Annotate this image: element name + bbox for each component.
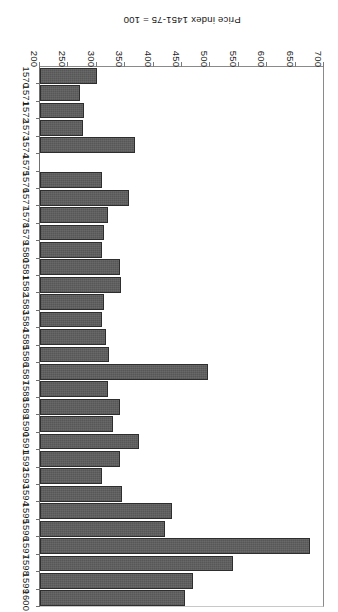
bar-row xyxy=(40,84,324,101)
bar-1571 xyxy=(40,85,80,101)
bar-row xyxy=(40,555,324,572)
category-tick xyxy=(36,118,40,119)
bar-row xyxy=(40,415,324,432)
category-tick xyxy=(36,571,40,572)
bar-row xyxy=(40,381,324,398)
bar-1573 xyxy=(40,120,83,136)
bar-1578 xyxy=(40,207,108,223)
bar-row xyxy=(40,328,324,345)
category-tick xyxy=(36,501,40,502)
value-tick-label: 250 xyxy=(57,39,68,79)
bar-row xyxy=(40,590,324,607)
category-tick xyxy=(36,136,40,137)
bar-row xyxy=(40,433,324,450)
bar-1594 xyxy=(40,486,122,502)
category-tick xyxy=(36,397,40,398)
bar-1581 xyxy=(40,259,120,275)
value-tick-label: 550 xyxy=(228,39,239,79)
category-tick xyxy=(36,414,40,415)
bar-1599 xyxy=(40,573,193,589)
bar-row xyxy=(40,102,324,119)
category-tick xyxy=(36,205,40,206)
bar-1577 xyxy=(40,190,129,206)
bar-row xyxy=(40,259,324,276)
bar-row xyxy=(40,241,324,258)
bar-1600 xyxy=(40,590,185,606)
category-tick xyxy=(36,554,40,555)
bar-1589 xyxy=(40,399,120,415)
bar-row xyxy=(40,189,324,206)
bar-row xyxy=(40,346,324,363)
category-tick xyxy=(36,345,40,346)
bar-1596 xyxy=(40,521,165,537)
category-tick xyxy=(36,536,40,537)
value-tick-label: 600 xyxy=(256,39,267,79)
bar-row xyxy=(40,154,324,171)
bar-row xyxy=(40,572,324,589)
category-label-1570: 1570 xyxy=(17,67,34,84)
value-tick-label: 400 xyxy=(143,39,154,79)
category-tick xyxy=(36,449,40,450)
category-tick xyxy=(36,171,40,172)
bar-row xyxy=(40,398,324,415)
bar-row xyxy=(40,224,324,241)
category-tick xyxy=(36,484,40,485)
bar-1590 xyxy=(40,416,113,432)
bar-row xyxy=(40,137,324,154)
category-tick xyxy=(36,589,40,590)
bar-1574 xyxy=(40,138,135,154)
bar-1591 xyxy=(40,434,139,450)
category-tick xyxy=(36,101,40,102)
category-tick xyxy=(36,606,40,607)
bar-1585 xyxy=(40,329,106,345)
bar-1586 xyxy=(40,347,109,363)
bar-row xyxy=(40,485,324,502)
category-tick xyxy=(36,188,40,189)
bar-row xyxy=(40,172,324,189)
bar-series xyxy=(40,67,324,607)
category-tick xyxy=(36,310,40,311)
bar-1592 xyxy=(40,451,120,467)
bar-1583 xyxy=(40,294,104,310)
category-tick xyxy=(36,327,40,328)
value-tick-label: 300 xyxy=(86,39,97,79)
value-tick-label: 500 xyxy=(199,39,210,79)
category-tick xyxy=(36,275,40,276)
bar-1584 xyxy=(40,312,102,328)
bar-1576 xyxy=(40,172,102,188)
category-tick xyxy=(36,153,40,154)
bar-row xyxy=(40,206,324,223)
bar-row xyxy=(40,520,324,537)
value-tick-label: 350 xyxy=(114,39,125,79)
bar-row xyxy=(40,67,324,84)
bar-row xyxy=(40,503,324,520)
value-tick-label: 450 xyxy=(171,39,182,79)
chart-figure: 700650600550500450400350300250200 160015… xyxy=(0,0,338,612)
bar-1582 xyxy=(40,277,121,293)
bar-row xyxy=(40,311,324,328)
bar-row xyxy=(40,537,324,554)
category-tick xyxy=(36,362,40,363)
bar-1587 xyxy=(40,364,208,380)
bar-1588 xyxy=(40,381,108,397)
category-tick xyxy=(36,432,40,433)
bar-row xyxy=(40,468,324,485)
bar-row xyxy=(40,276,324,293)
value-tick-label: 700 xyxy=(313,39,324,79)
bar-1598 xyxy=(40,556,233,572)
value-tick-label: 650 xyxy=(285,39,296,79)
category-tick xyxy=(36,380,40,381)
bar-1572 xyxy=(40,103,84,119)
category-tick xyxy=(36,223,40,224)
bar-1579 xyxy=(40,225,104,241)
category-tick xyxy=(36,240,40,241)
category-tick xyxy=(36,292,40,293)
bar-1595 xyxy=(40,503,172,519)
category-tick xyxy=(36,467,40,468)
bar-1593 xyxy=(40,468,102,484)
bar-1597 xyxy=(40,538,310,554)
category-tick xyxy=(36,519,40,520)
category-tick xyxy=(36,83,40,84)
bar-row xyxy=(40,293,324,310)
bar-row xyxy=(40,450,324,467)
